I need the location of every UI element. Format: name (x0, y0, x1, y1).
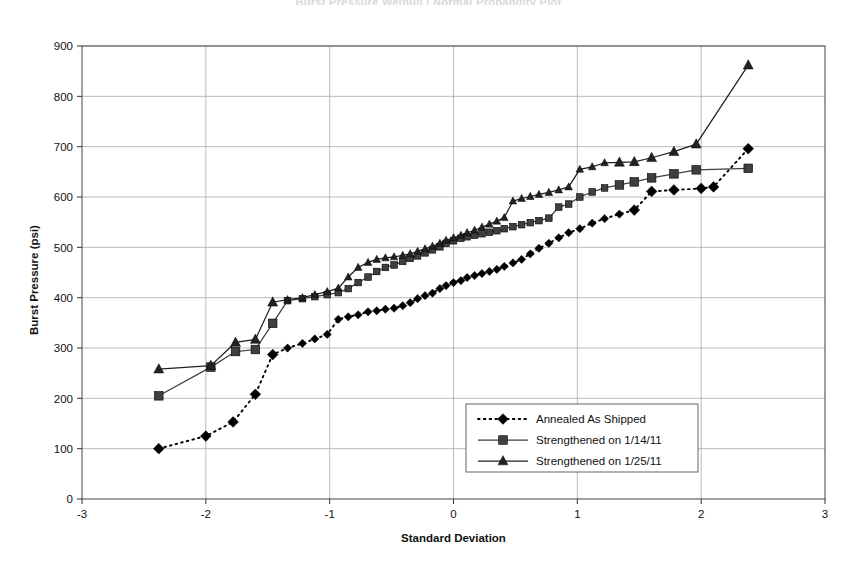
data-point-marker (630, 178, 639, 187)
x-tick-label: 1 (574, 508, 580, 520)
data-point-marker (228, 417, 239, 428)
data-point-marker (478, 269, 486, 277)
data-point-marker (555, 204, 562, 211)
data-point-marker (381, 305, 389, 313)
data-point-marker (311, 335, 319, 343)
data-point-marker (413, 295, 421, 303)
data-point-marker (373, 307, 381, 315)
x-tick-label: 3 (822, 508, 828, 520)
data-point-marker (535, 244, 543, 252)
y-tick-label: 0 (67, 493, 73, 505)
data-point-marker (576, 225, 584, 233)
data-point-marker (449, 278, 457, 286)
data-point-marker (692, 166, 701, 175)
x-tick-label: 2 (698, 508, 704, 520)
data-point-marker (589, 189, 596, 196)
legend-label: Annealed As Shipped (536, 413, 646, 425)
data-point-marker (546, 215, 553, 222)
data-point-marker (250, 334, 260, 343)
data-point-marker (355, 279, 362, 286)
data-point-marker (509, 259, 517, 267)
data-point-marker (334, 315, 342, 323)
data-point-marker (517, 255, 525, 263)
data-point-marker (354, 263, 362, 270)
x-tick-label: 0 (450, 508, 456, 520)
data-point-marker (485, 267, 493, 275)
data-point-marker (500, 214, 508, 221)
data-point-marker (345, 285, 352, 292)
data-point-marker (615, 181, 624, 190)
data-point-marker (670, 170, 679, 179)
data-point-marker (268, 319, 277, 328)
data-point-marker (588, 219, 596, 227)
data-point-marker (614, 157, 624, 166)
data-point-marker (391, 262, 398, 269)
data-point-marker (577, 194, 584, 201)
data-point-marker (364, 308, 372, 316)
x-tick-label: -1 (325, 508, 335, 520)
data-point-marker (518, 221, 525, 228)
y-tick-label: 500 (54, 242, 73, 254)
data-point-marker (354, 311, 362, 319)
data-point-marker (669, 185, 680, 196)
data-point-marker (390, 304, 398, 312)
data-point-marker (365, 274, 372, 281)
y-tick-label: 800 (54, 91, 73, 103)
data-point-marker (373, 268, 380, 275)
y-tick-label: 900 (54, 40, 73, 52)
data-point-marker (399, 258, 406, 265)
data-point-marker (421, 292, 429, 300)
data-point-marker (691, 139, 701, 148)
legend-label: Strengthened on 1/25/11 (536, 455, 662, 467)
data-point-marker (153, 443, 164, 454)
data-point-marker (470, 271, 478, 279)
data-point-marker (493, 265, 501, 273)
legend-box[interactable]: Annealed As ShippedStrengthened on 1/14/… (466, 404, 698, 472)
x-tick-label: -3 (77, 508, 87, 520)
data-point-marker (501, 225, 508, 232)
data-point-marker (646, 186, 657, 197)
data-point-marker (555, 234, 563, 242)
data-point-marker (154, 392, 163, 401)
y-tick-label: 600 (54, 191, 73, 203)
data-point-marker (615, 210, 623, 218)
data-point-marker (601, 185, 608, 192)
data-point-marker (428, 289, 436, 297)
data-point-marker (251, 345, 260, 354)
data-point-marker (479, 230, 486, 237)
y-tick-label: 200 (54, 393, 73, 405)
data-point-marker (565, 201, 572, 208)
plot-grid (82, 46, 825, 499)
data-point-marker (744, 164, 753, 173)
data-point-marker (743, 60, 753, 69)
data-point-marker (382, 264, 389, 271)
axis-ticks: 0100200300400500600700800900-3-2-10123 (54, 40, 828, 520)
data-point-marker (527, 219, 534, 226)
data-point-marker (696, 183, 707, 194)
data-point-marker (283, 344, 291, 352)
data-point-marker (406, 299, 414, 307)
data-point-marker (545, 239, 553, 247)
legend-marker-square (499, 436, 508, 445)
y-tick-label: 400 (54, 292, 73, 304)
y-tick-label: 700 (54, 141, 73, 153)
x-axis-title: Standard Deviation (82, 532, 825, 544)
data-point-marker (200, 431, 211, 442)
chart-plot-svg: 0100200300400500600700800900-3-2-10123 A… (0, 0, 857, 569)
y-axis-title: Burst Pressure (psi) (28, 225, 40, 335)
data-point-marker (565, 229, 573, 237)
y-tick-label: 300 (54, 342, 73, 354)
data-point-marker (344, 313, 352, 321)
y-tick-label: 100 (54, 443, 73, 455)
data-point-marker (486, 229, 493, 236)
data-point-marker (231, 347, 240, 356)
data-point-marker (500, 262, 508, 270)
chart-container: Burst Pressure Weibull / Normal Probabil… (0, 0, 857, 569)
data-point-marker (600, 215, 608, 223)
data-point-marker (647, 174, 656, 183)
legend-label: Strengthened on 1/14/11 (536, 434, 662, 446)
data-point-marker (494, 227, 501, 234)
x-tick-label: -2 (201, 508, 211, 520)
data-point-marker (399, 302, 407, 310)
data-point-marker (510, 223, 517, 230)
